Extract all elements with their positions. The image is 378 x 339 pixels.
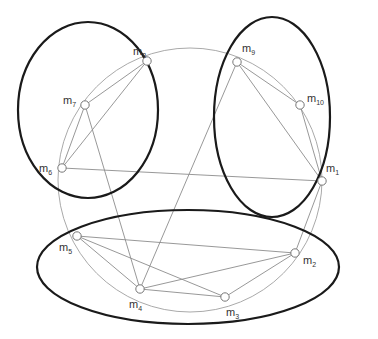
edge-m9-m1: [237, 62, 322, 181]
cluster-bottom: [37, 210, 339, 324]
node-m2: [291, 249, 299, 257]
edges-layer: [62, 61, 322, 297]
label-m2: m2: [303, 254, 316, 268]
edge-m10-m1: [300, 105, 322, 181]
label-m8: m8: [133, 45, 146, 59]
edge-m4-m3: [140, 289, 225, 297]
node-m7: [81, 101, 89, 109]
edge-m9-m4: [140, 62, 237, 289]
edge-m5-m2: [77, 236, 295, 253]
label-m3: m3: [226, 306, 239, 320]
edge-m9-m10: [237, 62, 300, 105]
ring-circle-layer: [58, 48, 322, 312]
node-m4: [136, 285, 144, 293]
edge-m2-m1: [295, 181, 322, 253]
node-m3: [221, 293, 229, 301]
ring-circle: [58, 48, 322, 312]
edge-m5-m3: [77, 236, 225, 297]
label-m6: m6: [39, 162, 52, 176]
node-m1: [318, 177, 326, 185]
node-m9: [233, 58, 241, 66]
label-m7: m7: [63, 94, 76, 108]
node-m6: [58, 164, 66, 172]
label-m10: m10: [307, 92, 324, 106]
node-m5: [73, 232, 81, 240]
edge-m3-m2: [225, 253, 295, 297]
edge-m6-m1: [62, 168, 322, 181]
network-diagram: m1m2m3m4m5m6m7m8m9m10: [0, 0, 378, 339]
node-m10: [296, 101, 304, 109]
label-m9: m9: [242, 42, 255, 56]
label-m1: m1: [326, 162, 339, 176]
edge-m8-m7: [85, 61, 147, 105]
cluster-right: [214, 17, 330, 217]
label-m5: m5: [59, 241, 72, 255]
edge-m8-m6: [62, 61, 147, 168]
label-m4: m4: [129, 298, 142, 312]
labels-layer: m1m2m3m4m5m6m7m8m9m10: [39, 42, 339, 320]
diagram-svg: m1m2m3m4m5m6m7m8m9m10: [0, 0, 378, 339]
